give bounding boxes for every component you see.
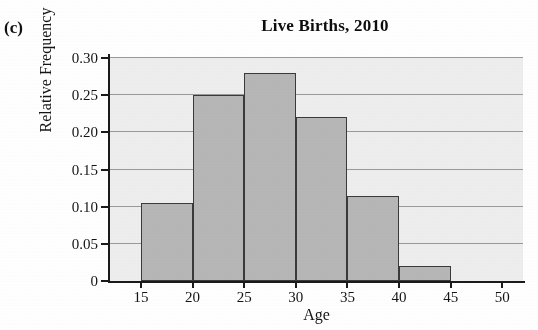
gridline	[110, 57, 523, 58]
x-axis-tick	[295, 281, 297, 288]
x-axis-tick-label: 30	[276, 289, 316, 306]
x-axis-tick-label: 40	[379, 289, 419, 306]
x-axis-tick-label: 20	[173, 289, 213, 306]
y-axis-tick	[101, 169, 109, 171]
x-axis-tick-label: 15	[121, 289, 161, 306]
y-axis-tick-label: 0.30	[52, 50, 98, 67]
y-axis-tick	[101, 57, 109, 59]
y-axis-tick	[101, 280, 109, 282]
y-axis-tick-label: 0.15	[52, 161, 98, 178]
x-axis-tick-label: 50	[482, 289, 522, 306]
x-axis-line	[108, 281, 525, 283]
x-axis-tick-label: 45	[431, 289, 471, 306]
x-axis-tick	[192, 281, 194, 288]
y-axis-tick-label: 0	[52, 273, 98, 290]
y-axis-tick-label: 0.10	[52, 198, 98, 215]
x-axis-title: Age	[110, 306, 523, 324]
x-axis-tick-label: 35	[327, 289, 367, 306]
x-axis-tick	[346, 281, 348, 288]
x-axis-tick-label: 25	[224, 289, 264, 306]
x-axis-tick	[450, 281, 452, 288]
figure-container: (c) Live Births, 2010 Relative Frequency…	[0, 0, 538, 330]
y-axis-tick-label: 0.05	[52, 235, 98, 252]
plot-area	[110, 58, 523, 281]
panel-label: (c)	[4, 18, 23, 38]
histogram-bar	[244, 73, 296, 281]
x-axis-tick	[398, 281, 400, 288]
histogram-bar	[399, 266, 451, 281]
chart-title: Live Births, 2010	[125, 16, 525, 36]
y-axis-tick	[101, 94, 109, 96]
y-axis-tick	[101, 243, 109, 245]
y-axis-tick	[101, 206, 109, 208]
y-axis-tick	[101, 131, 109, 133]
x-axis-tick	[243, 281, 245, 288]
y-axis-tick-label: 0.25	[52, 87, 98, 104]
x-axis-tick	[140, 281, 142, 288]
histogram-bar	[296, 117, 348, 281]
histogram-bar	[347, 196, 399, 281]
histogram-bar	[141, 203, 193, 281]
histogram-bar	[193, 95, 245, 281]
y-axis-tick-label: 0.20	[52, 124, 98, 141]
gridline	[110, 94, 523, 95]
x-axis-tick	[501, 281, 503, 288]
